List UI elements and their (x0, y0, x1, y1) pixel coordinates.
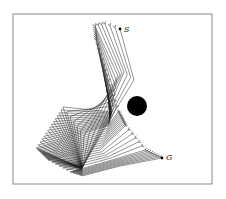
obstacle-circle (127, 96, 147, 116)
start-label: S (124, 25, 130, 34)
goal-label: G (166, 153, 173, 162)
motion-plan-figure: S G (0, 0, 226, 199)
goal-point-icon (161, 157, 164, 160)
start-point-icon (119, 28, 122, 31)
